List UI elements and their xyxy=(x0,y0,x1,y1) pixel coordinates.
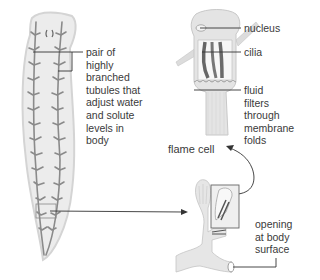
cilia-label: cilia xyxy=(244,46,262,59)
arrow-head-icon xyxy=(181,209,188,215)
planarian-body xyxy=(23,13,76,261)
tubules-label: pair of highly branched tubules that adj… xyxy=(86,46,143,147)
flame-cell-label: flame cell xyxy=(168,143,214,156)
opening-label: opening at body surface xyxy=(255,218,292,256)
zoom-arrow-line xyxy=(50,211,184,212)
fluid-label: fluid filters through membrane folds xyxy=(244,84,294,147)
arrow-head-icon xyxy=(226,145,234,151)
nucleus-label: nucleus xyxy=(244,22,280,35)
opening-leader-line xyxy=(233,258,276,267)
